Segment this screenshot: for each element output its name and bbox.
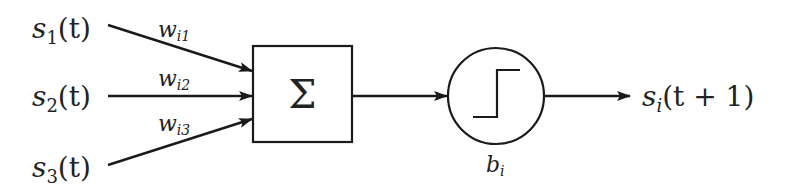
weight-label-2: wi2 <box>158 66 190 93</box>
weight-label-1: wi1 <box>158 17 190 44</box>
bias-label: bi <box>486 152 505 179</box>
output-label: si(t + 1) <box>642 80 754 116</box>
input-label-2: s2(t) <box>32 80 91 116</box>
weight-label-3: wi3 <box>158 111 190 138</box>
input-label-1: s1(t) <box>32 12 91 48</box>
summation-icon: Σ <box>288 71 316 117</box>
neuron-diagram: s1(t) s2(t) s3(t) wi1 wi2 wi3 Σ bi si(t … <box>0 0 785 194</box>
input-label-3: s3(t) <box>32 151 91 187</box>
